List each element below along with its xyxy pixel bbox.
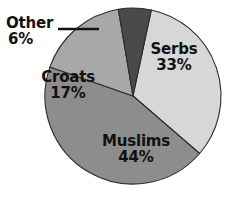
pie-chart-figure: Serbs 33% Muslims 44% Croats 17% Other 6…: [0, 0, 236, 205]
pie-label-other-name: Other: [2, 15, 62, 31]
pie-label-muslims-value: 44%: [98, 149, 174, 165]
pie-label-muslims-name: Muslims: [98, 133, 174, 149]
pie-label-croats-name: Croats: [33, 69, 103, 85]
pie-label-muslims: Muslims 44%: [98, 133, 174, 165]
pie-label-other-value: 6%: [2, 31, 62, 47]
pie-label-croats: Croats 17%: [33, 69, 103, 101]
pie-label-serbs-name: Serbs: [143, 41, 205, 57]
pie-label-other: Other 6%: [2, 15, 62, 47]
pie-label-serbs-value: 33%: [143, 57, 205, 73]
pie-label-serbs: Serbs 33%: [143, 41, 205, 73]
pie-label-croats-value: 17%: [33, 85, 103, 101]
